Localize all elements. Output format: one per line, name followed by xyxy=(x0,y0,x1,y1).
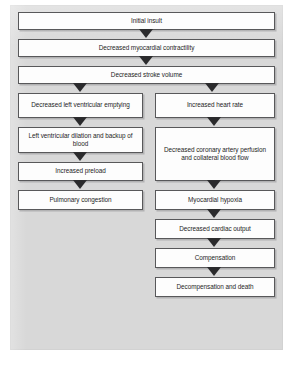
node-label: Decreased coronary artery perfusion and … xyxy=(159,146,271,163)
node-initial-insult: Initial insult xyxy=(18,12,275,30)
arrow-down-icon xyxy=(207,180,221,189)
arrow-down-icon xyxy=(139,56,153,65)
node-decreased-coronary-perfusion: Decreased coronary artery perfusion and … xyxy=(155,127,275,181)
node-label: Compensation xyxy=(159,254,271,262)
node-increased-preload: Increased preload xyxy=(18,162,143,181)
arrow-down-icon xyxy=(205,83,219,92)
node-label: Increased heart rate xyxy=(159,101,271,109)
node-label: Decompensation and death xyxy=(159,283,271,291)
arrow-down-icon xyxy=(207,209,221,218)
arrow-down-icon xyxy=(139,29,153,38)
arrow-down-icon xyxy=(207,267,221,276)
node-label: Increased preload xyxy=(22,167,139,175)
node-label: Decreased cardiac output xyxy=(159,225,271,233)
arrow-down-icon xyxy=(73,180,87,189)
node-label: Initial insult xyxy=(22,17,271,25)
node-pulmonary-congestion: Pulmonary congestion xyxy=(18,190,143,210)
node-label: Decreased stroke volume xyxy=(22,71,271,79)
arrow-down-icon xyxy=(73,152,87,161)
node-decompensation-death: Decompensation and death xyxy=(155,277,275,297)
diagram-panel: Initial insult Decreased myocardial cont… xyxy=(10,5,283,350)
node-label: Left ventricular dilation and backup of … xyxy=(22,132,139,149)
arrow-down-icon xyxy=(73,83,87,92)
node-lv-dilation: Left ventricular dilation and backup of … xyxy=(18,127,143,153)
arrow-down-icon xyxy=(207,117,221,126)
node-decreased-contractility: Decreased myocardial contractility xyxy=(18,39,275,57)
node-increased-heart-rate: Increased heart rate xyxy=(155,93,275,118)
node-label: Myocardial hypoxia xyxy=(159,196,271,204)
flowchart-root: Initial insult Decreased myocardial cont… xyxy=(0,0,300,366)
node-label: Decreased myocardial contractility xyxy=(22,44,271,52)
node-label: Decreased left ventricular emptying xyxy=(22,101,139,109)
node-compensation: Compensation xyxy=(155,248,275,268)
arrow-down-icon xyxy=(207,238,221,247)
node-myocardial-hypoxia: Myocardial hypoxia xyxy=(155,190,275,210)
node-label: Pulmonary congestion xyxy=(22,196,139,204)
node-decreased-cardiac-output: Decreased cardiac output xyxy=(155,219,275,239)
node-decreased-lv-emptying: Decreased left ventricular emptying xyxy=(18,93,143,118)
arrow-down-icon xyxy=(73,117,87,126)
node-decreased-stroke-volume: Decreased stroke volume xyxy=(18,66,275,84)
